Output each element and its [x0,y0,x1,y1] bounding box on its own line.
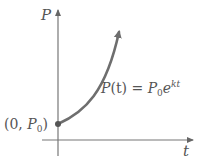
growth-curve [58,32,119,124]
x-axis-label: t [183,142,190,160]
initial-point [55,121,61,127]
exponential-growth-diagram: P t (0, P0) P(t) = P0ekt [0,0,199,167]
equation-label: P(t) = P0ekt [100,79,181,98]
y-axis-label: P [40,6,52,24]
point-label: (0, P0) [4,116,48,134]
